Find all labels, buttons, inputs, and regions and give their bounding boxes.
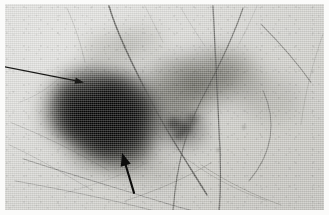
annotation-layer (5, 4, 324, 210)
dermoscopy-photo (5, 4, 324, 210)
thin-arrow-upper-left (5, 66, 84, 83)
dermoscopy-figure: Dermoscopic image of a pigmented skin le… (0, 0, 329, 215)
annotation-arrows (5, 4, 324, 210)
thick-arrow-lower (121, 153, 134, 193)
photo-frame (0, 0, 329, 215)
